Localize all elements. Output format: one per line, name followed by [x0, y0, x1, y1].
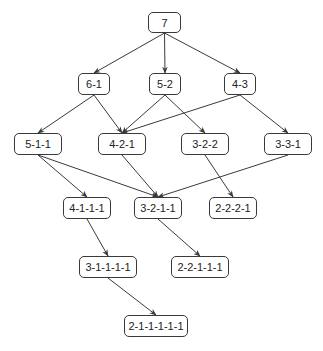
node-4-2-1: 4-2-1	[98, 133, 146, 155]
edges-layer	[0, 0, 323, 351]
edge-6-1-to-5-1-1	[38, 95, 94, 133]
node-2-2-2-1: 2-2-2-1	[209, 197, 257, 219]
node-4-3: 4-3	[224, 73, 256, 95]
edge-3-1-1-1-1-to-2-1-1-1-1-1	[108, 278, 156, 315]
edge-7-to-6-1	[94, 33, 165, 73]
node-5-2: 5-2	[149, 73, 181, 95]
node-3-2-1-1: 3-2-1-1	[134, 197, 182, 219]
edge-3-2-2-to-2-2-2-1	[205, 155, 233, 197]
node-4-1-1-1: 4-1-1-1	[63, 197, 111, 219]
node-2-2-1-1-1: 2-2-1-1-1	[171, 256, 229, 278]
edge-5-2-to-3-2-2	[165, 95, 205, 133]
edge-6-1-to-4-2-1	[94, 95, 122, 133]
edge-4-3-to-3-3-1	[240, 95, 288, 133]
node-2-1-1-1-1-1: 2-1-1-1-1-1	[124, 315, 188, 337]
edge-4-3-to-4-2-1	[122, 95, 240, 133]
edge-5-2-to-4-2-1	[122, 95, 165, 133]
edge-3-2-1-1-to-2-2-1-1-1	[158, 219, 200, 256]
node-3-2-2: 3-2-2	[181, 133, 229, 155]
node-3-3-1: 3-3-1	[264, 133, 312, 155]
node-5-1-1: 5-1-1	[14, 133, 62, 155]
edge-3-3-1-to-3-2-1-1	[158, 155, 288, 197]
edge-5-1-1-to-4-1-1-1	[38, 155, 87, 197]
node-6-1: 6-1	[78, 73, 110, 95]
node-3-1-1-1-1: 3-1-1-1-1	[79, 256, 137, 278]
edge-7-to-4-3	[165, 33, 241, 73]
edge-7-to-5-2	[165, 33, 166, 73]
node-7: 7	[148, 12, 181, 33]
edge-4-1-1-1-to-3-1-1-1-1	[87, 219, 108, 256]
